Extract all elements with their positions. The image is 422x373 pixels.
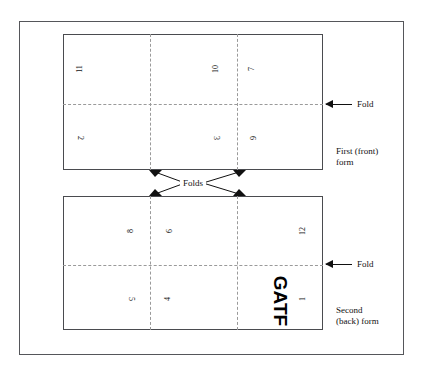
page-number-12: 12 [299,227,307,235]
fold-arrow-back-icon [326,264,352,265]
front-form-label: First (front) form [336,146,378,168]
back-vertical-fold-line-left [150,196,151,330]
page-number-1: 1 [299,297,307,301]
page-number-10: 10 [212,65,220,73]
page-number-5: 5 [127,297,135,301]
back-vertical-fold-line-right [237,196,238,330]
fold-callout-back: Fold [326,258,374,270]
page-number-4: 4 [164,297,172,301]
page-number-3: 3 [212,136,220,140]
front-vertical-fold-line-right [237,34,238,170]
page-number-7: 7 [248,67,256,71]
fold-callout-back-label: Fold [357,259,374,269]
page-number-9: 9 [164,229,172,233]
figure-canvas: 11 10 7 2 3 6 Fold First (front) form Fo… [0,0,422,373]
folds-label: Folds [180,178,206,188]
folds-callout-group: Folds [63,168,323,198]
gatf-logotype: GATF [269,276,291,326]
page-number-2: 2 [76,136,84,140]
fold-arrow-front-icon [326,104,352,105]
back-form-sheet: 8 9 12 5 4 1 GATF [63,196,323,330]
fold-callout-front-label: Fold [357,99,374,109]
page-number-8: 8 [127,229,135,233]
front-horizontal-fold-line [63,104,323,105]
back-horizontal-fold-line [63,265,323,266]
page-number-6: 6 [248,136,256,140]
page-number-11: 11 [76,65,84,73]
front-form-sheet: 11 10 7 2 3 6 [63,34,323,170]
front-vertical-fold-line-left [150,34,151,170]
back-form-label: Second (back) form [336,305,379,327]
fold-callout-front: Fold [326,98,374,110]
